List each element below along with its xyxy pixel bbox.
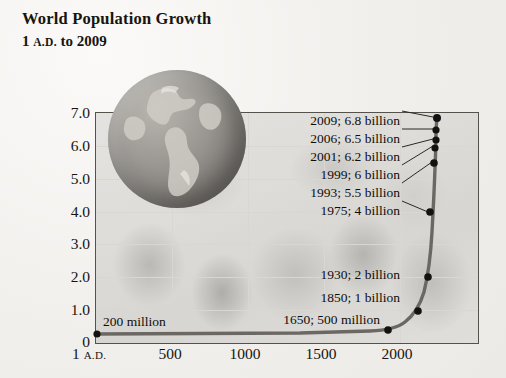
annotation-1999: 1999; 6 billion [135, 167, 400, 183]
x-tick-label-1ad: 1 A.D. [72, 345, 142, 363]
annotation-1975: 1975; 4 billion [135, 203, 400, 219]
annotation-1993: 1993; 5.5 billion [135, 185, 400, 201]
y-axis-ticks: 7.0 6.0 5.0 4.0 3.0 2.0 1.0 0 [40, 0, 90, 378]
x-tick-label-2000: 2000 [372, 345, 422, 363]
y-axis-label: Billions [0, 138, 4, 192]
y-tick-label: 6.0 [71, 137, 90, 155]
y-tick-label: 3.0 [71, 235, 90, 253]
x-tick-label-1500: 1500 [296, 345, 346, 363]
y-tick-label: 2.0 [71, 268, 90, 286]
gridline-vertical [248, 113, 249, 343]
annotation-200-million: 200 million [103, 314, 223, 330]
gridline-vertical [400, 113, 401, 343]
x-tick-year: 1 [72, 345, 84, 362]
y-tick-label: 1.0 [71, 301, 90, 319]
subtitle-prefix: 1 [22, 33, 33, 49]
chart-figure: World Population Growth 1 A.D. to 2009 [0, 0, 506, 378]
y-tick-label: 7.0 [71, 104, 90, 122]
x-tick-ad-suffix: A.D. [84, 349, 107, 361]
annotation-2001: 2001; 6.2 billion [135, 149, 400, 165]
annotation-1930: 1930; 2 billion [135, 267, 400, 283]
annotation-2009: 2009; 6.8 billion [135, 113, 400, 129]
y-tick-label: 5.0 [71, 170, 90, 188]
gridline-vertical [324, 113, 325, 343]
y-tick-label: 4.0 [71, 203, 90, 221]
annotation-2006: 2006; 6.5 billion [135, 131, 400, 147]
x-tick-label-1000: 1000 [220, 345, 270, 363]
gridline-horizontal [96, 310, 478, 311]
x-tick-label-500: 500 [145, 345, 195, 363]
annotation-1850: 1850; 1 billion [135, 290, 400, 306]
gridline-horizontal [96, 244, 478, 245]
